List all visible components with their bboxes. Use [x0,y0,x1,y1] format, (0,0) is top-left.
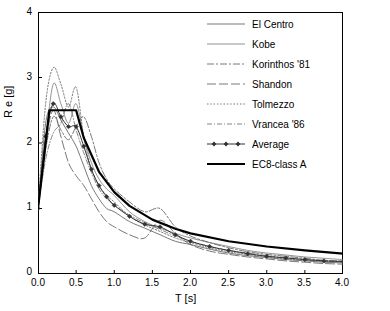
legend-item: EC8-class A [206,154,338,174]
x-tick-3: 1.5 [140,277,164,288]
legend-key-swatch [206,138,246,150]
legend-key-swatch [206,158,246,170]
legend-key-swatch [206,18,246,30]
spectra-chart: R e [g] T [s] 0 1 2 3 4 0.0 0.5 1.0 1.5 … [0,0,390,311]
legend-item: Tolmezzo [206,94,338,114]
legend-item: Vrancea '86 [206,114,338,134]
legend: El CentroKobeKorinthos '81ShandonTolmezz… [206,14,338,174]
y-tick-0: 0 [18,266,32,277]
y-tick-2: 2 [18,136,32,147]
series-marker [226,248,230,252]
series-marker [51,102,55,106]
x-tick-5: 2.5 [216,277,240,288]
x-tick-1: 0.5 [64,277,88,288]
legend-key-swatch [206,58,246,70]
legend-item: Average [206,134,338,154]
y-tick-1: 1 [18,201,32,212]
legend-key-swatch [206,38,246,50]
legend-key-swatch [206,118,246,130]
y-tick-4: 4 [18,6,32,17]
legend-key-swatch [206,78,246,90]
legend-item: Kobe [206,34,338,54]
legend-label: Vrancea '86 [246,119,305,130]
x-tick-2: 1.0 [102,277,126,288]
series-marker [188,239,192,243]
legend-label: Korinthos '81 [246,59,310,70]
legend-item: El Centro [206,14,338,34]
legend-label: EC8-class A [246,159,306,170]
x-tick-6: 3.0 [254,277,278,288]
x-tick-8: 4.0 [330,277,354,288]
x-tick-0: 0.0 [26,277,50,288]
y-axis-label: R e [g] [2,86,14,118]
legend-key-swatch [206,98,246,110]
series-marker [97,183,101,187]
x-tick-4: 2.0 [178,277,202,288]
series-marker [207,244,211,248]
legend-label: Kobe [246,39,275,50]
legend-item: Korinthos '81 [206,54,338,74]
legend-label: Shandon [246,79,292,90]
legend-label: El Centro [246,19,294,30]
legend-item: Shandon [206,74,338,94]
x-tick-7: 3.5 [292,277,316,288]
x-axis-label: T [s] [175,292,196,304]
y-tick-3: 3 [18,71,32,82]
legend-label: Tolmezzo [246,99,294,110]
legend-label: Average [246,139,289,150]
